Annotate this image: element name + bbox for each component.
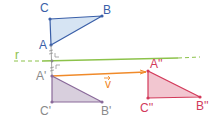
label-a1: A' [36,69,46,83]
point-c2 [146,96,149,99]
line-r-dashed-right [178,57,200,58]
label-a2: A'' [150,57,163,71]
label-v: v [105,77,111,91]
triangle-a1b1c1 [52,76,102,102]
point-c [48,17,51,20]
label-a: A [39,38,47,52]
label-c2: C'' [140,101,153,115]
label-b1: B' [101,104,111,118]
label-r: r [15,48,19,62]
label-b: B [103,3,111,17]
label-b2: B'' [196,99,209,113]
point-a1 [50,74,53,77]
triangle-abc [50,16,102,45]
triangle-a2b2c2 [148,71,200,98]
midpoint [51,60,54,63]
label-c1: C' [40,104,51,118]
vector-v [52,72,146,76]
geometry-diagram: C B A r A' C' B' v A'' C'' B'' [0,0,213,128]
label-c: C [40,1,49,15]
right-angle-top [55,53,59,57]
right-angle-bottom [56,65,60,69]
